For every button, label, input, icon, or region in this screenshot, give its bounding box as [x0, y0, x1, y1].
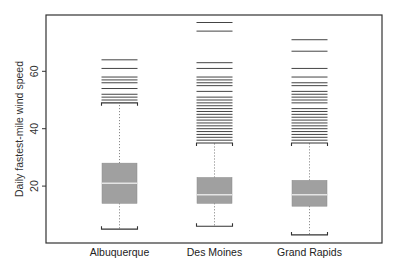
plot-area: 204060AlbuquerqueDes MoinesGrand Rapids [28, 15, 382, 258]
y-tick-label: 40 [28, 123, 40, 135]
y-axis-label: Daily fastest-mile wind speed [13, 61, 25, 197]
boxplot-chart: 204060AlbuquerqueDes MoinesGrand Rapids … [0, 0, 395, 272]
whisker-cap [292, 143, 328, 146]
y-tick-label: 60 [28, 65, 40, 77]
y-tick-label: 20 [28, 180, 40, 192]
box-grand-rapids [292, 180, 327, 206]
x-tick-label: Albuquerque [90, 246, 150, 258]
x-tick-label: Des Moines [187, 246, 242, 258]
whisker-cap [197, 143, 233, 146]
x-tick-label: Grand Rapids [277, 246, 342, 258]
box-des-moines [197, 177, 232, 203]
